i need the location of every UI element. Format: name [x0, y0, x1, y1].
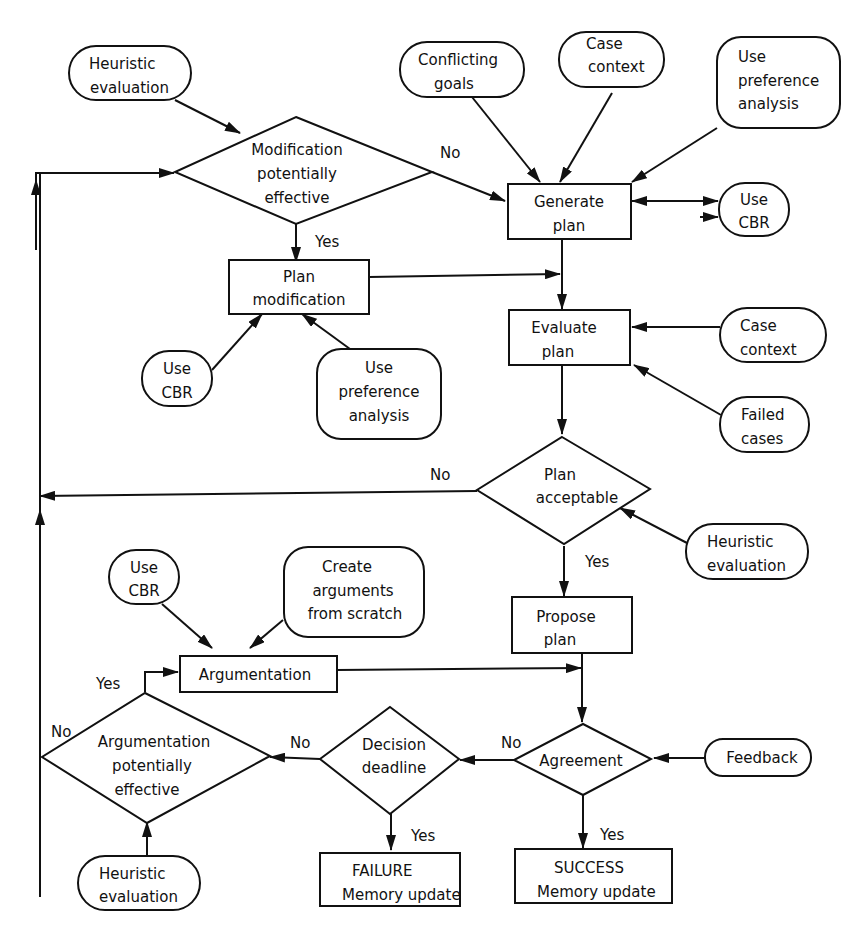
node-label: FAILURE [352, 862, 412, 880]
node-label: context [740, 341, 797, 359]
node-label: arguments [312, 582, 393, 600]
node-heuristic-evaluation-right: Heuristic evaluation [686, 524, 808, 579]
edge-modification-no-to-generate [432, 172, 505, 201]
flowchart-canvas: Heuristic evaluation Modification potent… [0, 0, 862, 939]
edge-rail-to-modification [36, 173, 174, 250]
node-label: preference [738, 72, 819, 90]
edge-acceptable-no-to-rail [40, 491, 477, 496]
node-label: CBR [738, 214, 769, 232]
edge-label-acceptable-yes: Yes [584, 553, 609, 571]
node-label: modification [252, 291, 345, 309]
node-label: goals [434, 75, 474, 93]
node-label: CBR [161, 384, 192, 402]
edge-label-acceptable-no: No [430, 466, 450, 484]
node-label: Memory update [537, 883, 656, 901]
node-label: effective [264, 189, 329, 207]
node-create-arguments: Create arguments from scratch [284, 547, 424, 637]
node-use-preference-analysis-top: Use preference analysis [717, 37, 840, 128]
node-use-preference-analysis-mod: Use preference analysis [317, 349, 441, 439]
node-propose-plan: Propose plan [512, 597, 632, 653]
node-label: Failed [741, 406, 785, 424]
node-label: Heuristic [707, 533, 773, 551]
node-label: Propose [536, 608, 596, 626]
node-label: preference [338, 383, 419, 401]
node-label: Decision [362, 736, 426, 754]
edge-pref-to-planmod [302, 314, 350, 349]
node-use-cbr-modification: Use CBR [142, 351, 212, 406]
edge-planmod-to-evaluate [369, 274, 560, 277]
edge-label-agreement-yes: Yes [599, 826, 624, 844]
edge-argumentation-to-agreement [337, 668, 581, 670]
node-label: CBR [128, 582, 159, 600]
node-label: Case [740, 317, 777, 335]
edge-heuristic-to-modification [175, 100, 240, 133]
node-use-cbr-argumentation: Use CBR [109, 550, 179, 604]
edge-label-deadline-yes: Yes [410, 827, 435, 845]
node-label: analysis [738, 95, 799, 113]
node-failure: FAILURE Memory update [320, 853, 461, 906]
node-heuristic-evaluation-bottom: Heuristic evaluation [78, 856, 200, 910]
node-argumentation-decision: Argumentation potentially effective [42, 693, 270, 823]
node-label: Use [163, 360, 191, 378]
node-decision-deadline: Decision deadline [320, 707, 459, 814]
node-label: Case [586, 35, 623, 53]
edge-conflicting-to-generate [472, 97, 540, 182]
node-label: Modification [251, 141, 342, 159]
node-label: potentially [112, 757, 192, 775]
edge-label-modification-yes: Yes [314, 233, 339, 251]
node-label: plan [553, 217, 585, 235]
edge-cbr-to-planmod [212, 314, 262, 370]
node-generate-plan: Generate plan [508, 184, 631, 239]
node-label: Plan [544, 466, 576, 484]
node-agreement: Agreement [514, 724, 651, 795]
node-label: Plan [283, 268, 315, 286]
node-label: plan [542, 343, 574, 361]
node-label: Memory update [342, 886, 461, 904]
node-label: Create [322, 558, 372, 576]
node-case-context-top: Case context [559, 32, 664, 87]
node-feedback: Feedback [705, 739, 811, 776]
node-modification-decision: Modification potentially effective [175, 117, 432, 224]
node-label: evaluation [707, 557, 786, 575]
node-label: Agreement [539, 752, 622, 770]
node-failed-cases: Failed cases [720, 397, 809, 452]
edge-label-deadline-no: No [290, 734, 310, 752]
node-label: potentially [257, 165, 337, 183]
edge-label-agreement-no: No [501, 734, 521, 752]
node-label: evaluation [90, 79, 169, 97]
node-label: evaluation [99, 888, 178, 906]
node-label: Feedback [726, 749, 798, 767]
node-label: SUCCESS [554, 859, 624, 877]
node-plan-acceptable: Plan acceptable [477, 437, 650, 544]
node-label: Evaluate [531, 319, 597, 337]
edge-create-to-argumentation [250, 620, 283, 648]
node-label: effective [114, 781, 179, 799]
node-label: analysis [349, 407, 410, 425]
node-use-cbr-right: Use CBR [719, 183, 789, 236]
edge-argdecision-yes-to-argumentation [145, 672, 178, 692]
node-evaluate-plan: Evaluate plan [509, 310, 630, 365]
node-label: from scratch [308, 605, 403, 623]
node-label: cases [741, 430, 783, 448]
node-heuristic-evaluation-top: Heuristic evaluation [69, 46, 191, 100]
node-label: Heuristic [99, 865, 165, 883]
node-label: Heuristic [89, 55, 155, 73]
edge-pref-to-generate [632, 128, 717, 182]
edge-label-modification-no: No [440, 144, 460, 162]
node-label: plan [544, 631, 576, 649]
edge-cbr-to-argumentation [162, 604, 212, 648]
node-label: Conflicting [418, 51, 498, 69]
node-label: Argumentation [199, 666, 311, 684]
node-label: acceptable [536, 489, 618, 507]
node-conflicting-goals: Conflicting goals [400, 42, 524, 97]
node-label: Use [130, 559, 158, 577]
node-success: SUCCESS Memory update [515, 849, 672, 903]
node-label: context [588, 58, 645, 76]
node-label: Use [365, 359, 393, 377]
node-argumentation: Argumentation [180, 656, 337, 692]
edge-failed-to-evaluate [634, 365, 721, 415]
node-label: Use [738, 48, 766, 66]
node-label: Argumentation [98, 733, 210, 751]
node-label: deadline [362, 759, 427, 777]
edge-label-argdecision-yes: Yes [95, 675, 120, 693]
